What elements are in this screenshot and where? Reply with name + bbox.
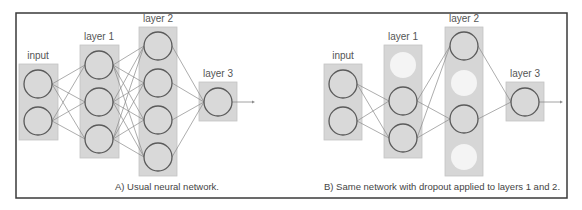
neuron — [329, 107, 357, 135]
neuron — [450, 105, 478, 133]
neuron — [329, 70, 357, 98]
dropped-neuron — [451, 144, 477, 170]
neuron — [85, 51, 113, 79]
layer-label: layer 3 — [203, 68, 233, 79]
neuron — [144, 32, 172, 60]
arrow-head-icon — [252, 101, 255, 104]
neuron — [511, 88, 539, 116]
layer-label: layer 2 — [143, 13, 173, 24]
neuron — [85, 88, 113, 116]
dropped-neuron — [451, 70, 477, 96]
neuron — [204, 88, 232, 116]
dropped-neuron — [390, 52, 416, 78]
neuron — [389, 87, 417, 115]
layer-label: layer 1 — [84, 31, 114, 42]
neuron — [24, 70, 52, 98]
panel-dropout-network: inputlayer 1layer 2layer 3 B) Same netwo… — [324, 13, 563, 192]
layer-label: layer 2 — [449, 13, 479, 24]
neuron — [24, 107, 52, 135]
neuron — [144, 106, 172, 134]
neuron — [85, 125, 113, 153]
panel-usual-network: inputlayer 1layer 2layer 3 A) Usual neur… — [19, 13, 255, 192]
neuron — [144, 69, 172, 97]
neuron — [389, 124, 417, 152]
layer-label: layer 3 — [510, 68, 540, 79]
neuron — [144, 143, 172, 171]
layer-label: input — [27, 50, 49, 61]
arrow-head-icon — [560, 101, 563, 104]
neuron — [450, 32, 478, 60]
layer-label: layer 1 — [388, 31, 418, 42]
panel-a-caption: A) Usual neural network. — [115, 181, 219, 192]
layer-label: input — [332, 50, 354, 61]
dropout-diagram: inputlayer 1layer 2layer 3 A) Usual neur… — [0, 0, 582, 210]
panel-b-caption: B) Same network with dropout applied to … — [324, 181, 560, 192]
